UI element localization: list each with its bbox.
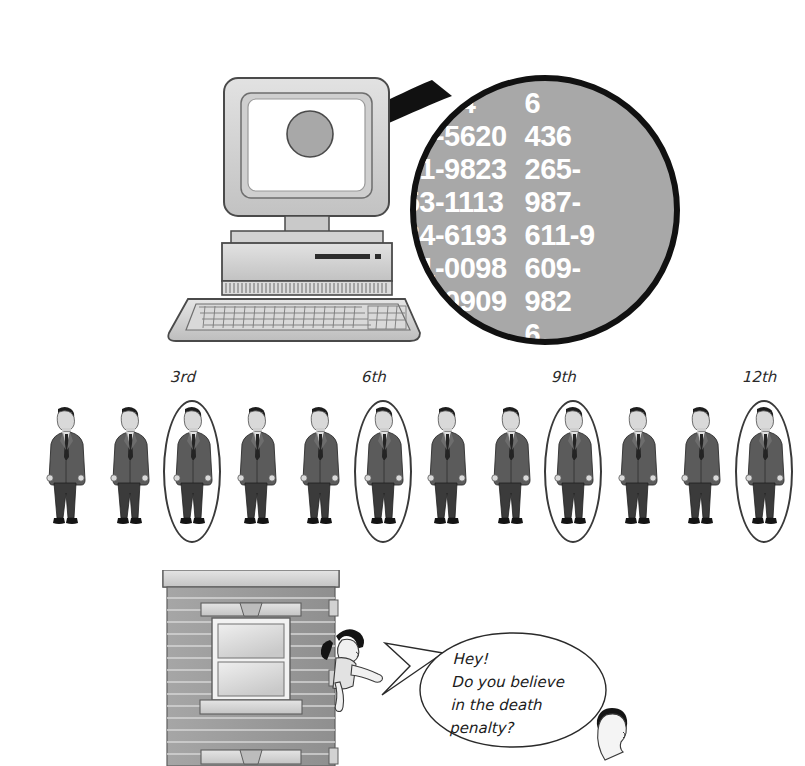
person-10 — [614, 405, 660, 530]
bubble-line-1: Hey! — [453, 648, 594, 671]
person-7 — [423, 405, 469, 530]
window-pane-lower — [218, 662, 284, 696]
street-illustration — [0, 570, 805, 766]
phone-number: 611-9 — [525, 219, 595, 252]
person-5 — [296, 405, 342, 530]
phone-number: 436 — [525, 120, 595, 153]
phone-number: 434-6193 — [410, 219, 507, 252]
bubble-line-2: Do you believe — [452, 671, 593, 694]
selection-ring-9 — [544, 400, 602, 543]
screen-focus-spot — [287, 111, 333, 157]
phone-number: 553-1113 — [410, 186, 507, 219]
person-1 — [42, 405, 88, 530]
keyboard — [168, 299, 420, 341]
phone-number: 231-0098 — [410, 252, 507, 285]
selection-ring-6 — [354, 400, 412, 543]
tick-label-9th: 9th — [551, 368, 577, 386]
phone-number: 265- — [525, 153, 595, 186]
disk-slot — [315, 254, 370, 259]
person-11 — [677, 405, 723, 530]
figure-canvas: 6-1234 427-5620 931-9823 553-1113 434-61… — [0, 0, 805, 766]
passerby-face — [598, 714, 627, 760]
phone-number: 6 — [525, 87, 595, 120]
woman-arm — [351, 665, 383, 682]
phone-column-left: 6-1234 427-5620 931-9823 553-1113 434-61… — [410, 87, 507, 345]
phone-number: 6-1234 — [410, 87, 507, 120]
tick-label-3rd: 3rd — [170, 368, 196, 386]
phone-column-right: 6 436 265- 987- 611-9 609- 982 6 — [525, 87, 595, 345]
panel-computer: 6-1234 427-5620 931-9823 553-1113 434-61… — [0, 0, 805, 360]
panel-street-interview — [0, 570, 805, 766]
speech-bubble-text: Hey! Do you believe in the death penalty… — [450, 648, 595, 740]
phone-number: 931-9823 — [410, 153, 507, 186]
person-2 — [106, 405, 152, 530]
magnifier-lens: 6-1234 427-5620 931-9823 553-1113 434-61… — [410, 75, 680, 345]
panel-people-line: 3rd 6th 9th 12th — [0, 360, 805, 570]
phone-number: 329-0909 — [410, 285, 507, 318]
selection-ring-12 — [735, 400, 793, 543]
computer-illustration — [0, 0, 805, 360]
selection-ring-3 — [163, 400, 221, 543]
person-8 — [487, 405, 533, 530]
phone-number: 987- — [525, 186, 595, 219]
monitor — [224, 78, 389, 233]
drive-light — [375, 254, 381, 259]
phone-number-columns: 6-1234 427-5620 931-9823 553-1113 434-61… — [410, 87, 680, 345]
bubble-line-3: in the death — [451, 694, 592, 717]
tick-label-12th: 12th — [742, 368, 778, 386]
tick-label-6th: 6th — [361, 368, 387, 386]
window-pane-upper — [218, 624, 284, 658]
passerby — [597, 708, 627, 760]
computer-base-unit — [222, 231, 392, 295]
phone-number: 982 — [525, 285, 595, 318]
apartment-building — [163, 570, 339, 766]
person-4 — [233, 405, 279, 530]
bubble-line-4: penalty? — [450, 717, 591, 740]
window-sill — [200, 700, 302, 714]
phone-number: 609- — [525, 252, 595, 285]
phone-number: 427-5620 — [410, 120, 507, 153]
